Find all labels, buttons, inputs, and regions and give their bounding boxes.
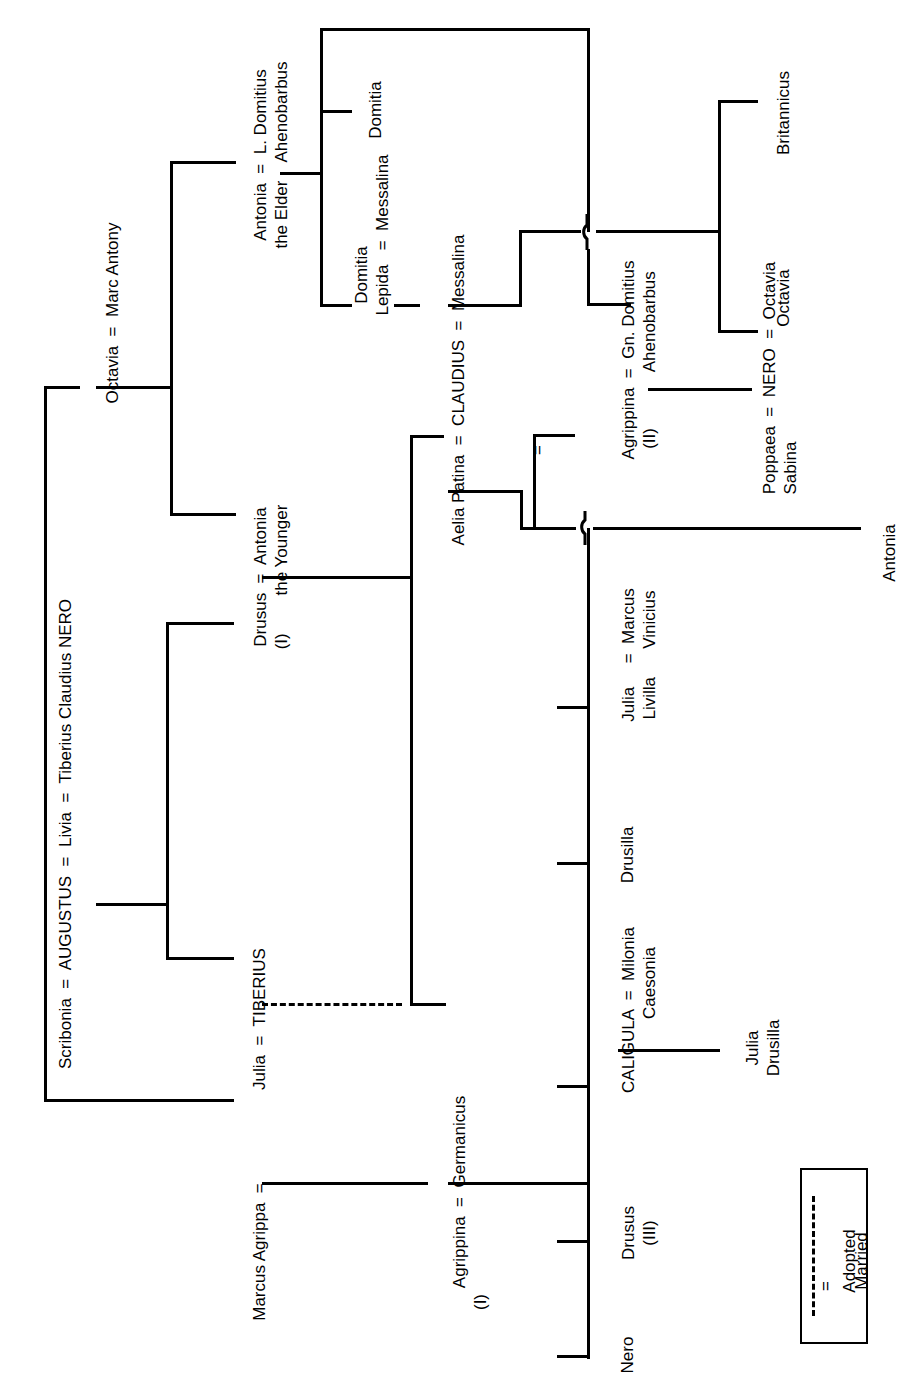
connector-aelia-step-2 — [520, 527, 576, 530]
person-octavia-marc-antony: Octavia = Marc Antony — [103, 193, 123, 433]
connector-antonia-elder-children-spine — [320, 28, 323, 306]
connector-to-drusilla — [557, 862, 590, 865]
connector-ahenobarbus-drop — [587, 249, 590, 305]
connector-britannicus-octavia-spine — [718, 100, 721, 332]
person-domitia-lepida: Domitia — [351, 220, 372, 330]
person-britannicus: Britannicus — [774, 48, 794, 178]
connector-aelia-step — [520, 490, 523, 530]
person-agrippina-ii-line2: (II) Ahenobarbus — [639, 220, 660, 500]
connector-antony-out — [96, 386, 172, 389]
connector-antony-children-spine — [170, 161, 173, 516]
connector-to-antonia-elder — [170, 161, 236, 164]
connector-antonia-daughter-rail — [593, 527, 861, 530]
connector-to-caligula — [557, 1085, 590, 1088]
connector-drusus-to-claudius-spine — [410, 435, 413, 579]
connector-antonia-elder-union — [280, 172, 322, 175]
person-agrippina-i-line2: (I) — [470, 1272, 491, 1332]
person-julia-drusilla: Julia — [742, 1003, 763, 1093]
connector-tiberius-drop — [166, 903, 169, 960]
legend-equals-icon: = — [816, 1276, 836, 1296]
connector-to-domitia-lepida — [320, 304, 352, 307]
connector-lepida-to-messalina — [394, 304, 420, 307]
person-caligula-line2: Caesonia — [639, 933, 660, 1033]
person-poppaea-nero-octavia-line2: Sabina — [780, 408, 801, 528]
connector-augustus-spine — [44, 386, 47, 1102]
connector-livia-out — [96, 903, 168, 906]
person-antonia-daughter: Antonia — [880, 498, 900, 608]
connector-augustus-to-julia — [44, 1099, 80, 1102]
connector-top-rail-drop — [587, 28, 590, 232]
connector-aelia-claudius-union — [448, 490, 523, 493]
person-drusilla: Drusilla — [618, 810, 638, 900]
person-drusus-iii: Drusus — [618, 1188, 639, 1278]
connector-augustus-to-octavia — [44, 386, 80, 389]
connector-to-britannicus — [718, 100, 758, 103]
connector-to-octavia-child — [718, 330, 758, 333]
connector-to-claudius — [410, 435, 444, 438]
legend-adopted-sample — [812, 1196, 815, 1316]
connector-germanicus-union — [448, 1182, 588, 1185]
connector-adoption-tiberius-germanicus — [262, 1003, 402, 1006]
connector-julia-to-augustus — [80, 1099, 234, 1102]
person-antonia-the-elder: Antonia = L. Domitius — [250, 20, 271, 290]
connector-messalina-rail-up — [519, 230, 522, 307]
person-julia-tiberius: Julia = TIBERIUS — [250, 934, 270, 1104]
person-drusus-iii-line2: (III) — [639, 1188, 660, 1278]
connector-top-rail — [320, 28, 590, 31]
person-augustus-row: Scribonia = AUGUSTUS = Livia = Tiberius … — [56, 564, 76, 1104]
connector-to-antonia-younger — [170, 513, 236, 516]
connector-to-julia-livilla — [557, 706, 590, 709]
person-marcus-agrippa: Marcus Agrippa = — [250, 1172, 270, 1332]
connector-to-drusus-i — [166, 622, 234, 625]
person-claudius-row: Aelia Patina = CLAUDIUS = Messalina — [449, 180, 469, 600]
connector-drusus-antonia-union — [262, 576, 412, 579]
connector-germanicus-spine — [410, 576, 413, 1006]
connector-germanicus-children-spine — [587, 528, 590, 1358]
connector-claudius-agrippina-ii-tick — [533, 434, 575, 437]
connector-agrippa-julia-union — [262, 1182, 428, 1185]
connector-to-tiberius — [166, 957, 234, 960]
person-julia-livilla: Julia = Marcus — [618, 560, 639, 750]
person-domitia-lepida-line2: Lepida = Messalina — [372, 140, 393, 330]
person-claudius-second-equals: = — [528, 440, 548, 460]
person-julia-drusilla-line2: Drusilla — [763, 1003, 784, 1093]
connector-to-nero-child — [557, 1355, 590, 1358]
connector-livia-children-spine — [166, 622, 169, 906]
person-agrippina-ii: Agrippina = Gn. Domitius — [618, 220, 639, 500]
person-antonia-the-elder-line2: the Elder Ahenobarbus — [271, 20, 292, 290]
connector-messalina-rail-2 — [519, 230, 581, 233]
connector-claudius-agrippina-ii — [533, 434, 536, 529]
family-tree-diagram: Scribonia = AUGUSTUS = Livia = Tiberius … — [0, 0, 904, 1400]
connector-agrippina-ii-to-nero — [648, 388, 752, 391]
connector-to-domitia — [320, 110, 352, 113]
person-agrippina-i: Agrippina = Germanicus — [449, 1052, 470, 1332]
connector-caligula-to-julia-drusilla — [618, 1049, 720, 1052]
connector-nero-child-corner — [587, 1355, 590, 1359]
person-octavia-child: Octavia — [774, 248, 794, 348]
connector-to-drusus-iii — [557, 1240, 590, 1243]
legend-married-label: Married — [852, 1206, 872, 1316]
person-nero-child: Nero — [618, 1320, 638, 1390]
person-caligula: CALIGULA = Milonia — [618, 900, 639, 1120]
connector-germanicus-tick — [410, 1003, 446, 1006]
person-julia-livilla-line2: Livilla Vinicius — [639, 560, 660, 750]
